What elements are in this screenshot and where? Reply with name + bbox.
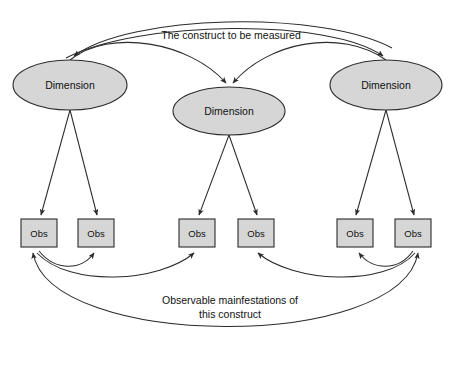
observation-node-1[interactable]: Obs: [21, 219, 57, 247]
observation-label-6: Obs: [404, 228, 422, 239]
dimension-node-middle[interactable]: Dimension: [173, 87, 285, 135]
dimension-label-left: Dimension: [45, 79, 95, 91]
dim-left-to-obs-2-arrow: [70, 110, 97, 215]
dimension-node-right[interactable]: Dimension: [330, 60, 442, 110]
observation-label-2: Obs: [87, 228, 105, 239]
dimension-label-middle: Dimension: [204, 105, 254, 117]
dim-middle-to-obs-3-arrow: [199, 135, 229, 215]
observation-label-5: Obs: [346, 228, 364, 239]
dimension-node-left[interactable]: Dimension: [13, 60, 127, 110]
observation-label-4: Obs: [247, 228, 265, 239]
top-annotation-label: The construct to be measured: [161, 29, 301, 41]
dimension-label-right: Dimension: [361, 79, 411, 91]
observation-node-5[interactable]: Obs: [337, 219, 373, 247]
dim-right-to-obs-5-arrow: [356, 110, 386, 215]
obs-1-to-obs-2-arrow: [39, 251, 94, 266]
observation-node-6[interactable]: Obs: [395, 219, 431, 247]
dimension-node-group: Dimension Dimension Dimension: [13, 60, 442, 135]
observation-node-group: Obs Obs Obs Obs Obs Obs: [21, 219, 431, 247]
observation-node-2[interactable]: Obs: [78, 219, 114, 247]
observation-label-3: Obs: [188, 228, 206, 239]
observation-label-1: Obs: [30, 228, 48, 239]
obs-6-to-obs-4-arrow: [258, 253, 415, 277]
dim-left-to-obs-1-arrow: [41, 110, 70, 215]
dim-right-to-obs-6-arrow: [386, 110, 414, 215]
diagram-canvas: Dimension Dimension Dimension Obs Obs: [0, 0, 455, 365]
observation-node-3[interactable]: Obs: [179, 219, 215, 247]
observation-node-4[interactable]: Obs: [238, 219, 274, 247]
dim-middle-to-obs-4-arrow: [229, 135, 257, 215]
annotation-group: The construct to be measured Observable …: [161, 29, 301, 320]
bottom-annotation-line-2: this construct: [199, 308, 261, 320]
diagram-root: Dimension Dimension Dimension Obs Obs: [0, 0, 455, 365]
bottom-annotation-line-1: Observable mainfestations of: [162, 294, 298, 306]
obs-6-to-obs-5-arrow: [359, 251, 413, 266]
